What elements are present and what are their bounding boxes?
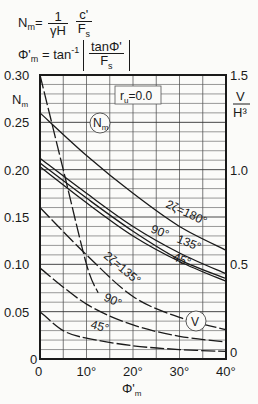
y-left-tick-label: 0.10 [4,257,29,272]
v-circle-label: V [191,315,199,329]
x-tick-label: 40° [216,364,236,379]
y-right-tick-label: 0 [230,345,237,360]
x-axis-title: Φ'm [122,381,142,398]
y-left-tick-label: 0 [30,352,37,367]
y-left-tick-label: 0.30 [4,68,29,83]
y-right-tick-label: 1.0 [230,163,248,178]
y-left-tick-label: 0.20 [4,163,29,178]
x-tick-label: 10° [77,364,97,379]
label-v-90: 90° [102,290,125,310]
chart: 010°20°30°40°00.050.100.150.200.250.3000… [0,0,258,404]
right-axis-title-num: V [236,89,245,104]
right-axis-title-den: H³ [233,105,247,120]
y-left-tick-label: 0.25 [4,115,29,130]
curve-v-h-2-180- [40,75,98,293]
y-right-tick-label: 0.5 [230,257,248,272]
x-tick-label: 20° [123,364,143,379]
label-v-45: 45° [89,317,110,335]
y-left-tick-label: 0.05 [4,305,29,320]
x-tick-label: 30° [170,364,190,379]
left-axis-title: Nm [12,92,28,109]
label-v-135: 2ζ=135° [101,249,144,288]
y-right-tick-label: 1.5 [230,68,248,83]
y-left-tick-label: 0.15 [4,210,29,225]
